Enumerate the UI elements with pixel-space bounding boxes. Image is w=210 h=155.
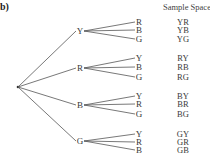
branch-line: [18, 87, 76, 141]
branch-line: [84, 105, 135, 114]
sample-space-outcome: BR: [177, 100, 188, 109]
leaf-node: B: [136, 63, 142, 72]
branch-line: [84, 141, 135, 142]
tree-diagram: b) Sample Space YRYRBYBGYGRYRYBRBGRGBYBY…: [0, 0, 210, 154]
part-label: b): [0, 1, 9, 12]
first-level-node: B: [77, 101, 83, 110]
branch-line: [84, 134, 135, 141]
branch-line: [18, 68, 76, 87]
branch-line: [84, 104, 135, 105]
branch-line: [84, 58, 135, 68]
branch-line: [84, 31, 135, 39]
branch-line: [18, 87, 76, 105]
branch-line: [84, 96, 135, 105]
branch-line: [84, 141, 135, 150]
sample-space-outcome: RG: [177, 73, 189, 82]
first-level-node: G: [77, 137, 84, 146]
leaf-node: G: [136, 73, 143, 82]
leaf-node: B: [136, 146, 142, 155]
leaf-node: G: [136, 110, 143, 119]
branch-line: [84, 67, 135, 68]
sample-space-outcome: RB: [177, 63, 188, 72]
sample-space-outcome: YG: [177, 35, 189, 44]
branch-line: [18, 31, 76, 87]
first-level-node: R: [77, 64, 83, 73]
first-level-node: Y: [77, 27, 84, 36]
branch-line: [84, 30, 135, 31]
branch-line: [84, 68, 135, 77]
sample-space-outcome: BG: [177, 110, 189, 119]
leaf-node: G: [136, 35, 143, 44]
leaf-node: R: [136, 100, 142, 109]
sample-space-outcome: GB: [177, 146, 189, 155]
branch-line: [84, 22, 135, 31]
sample-space-header: Sample Space: [163, 3, 210, 12]
